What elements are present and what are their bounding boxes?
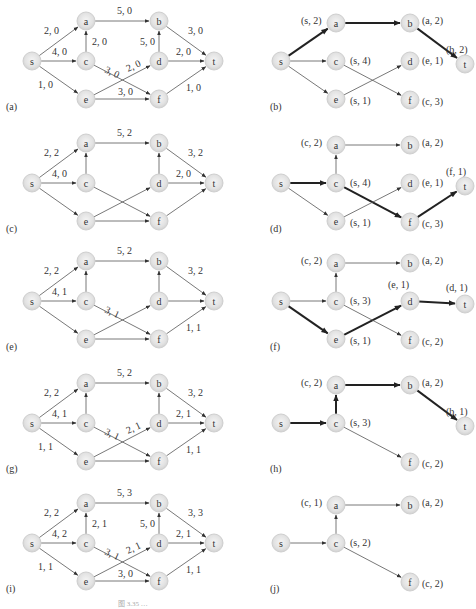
edge-s-e (39, 188, 77, 215)
node-c: c (327, 534, 345, 552)
node-label: e (84, 334, 89, 345)
node-f: f (401, 573, 419, 591)
panel-label-j: (j) (270, 583, 279, 595)
node-label: e (84, 456, 89, 467)
node-c: c (77, 174, 95, 192)
node-label: a (334, 18, 339, 29)
edge-label-s-a: 2, 2 (44, 265, 59, 276)
figure-caption: 图 3.35 … (118, 600, 148, 608)
node-d: d (150, 292, 168, 310)
edge-label-s-a: 2, 0 (44, 25, 59, 36)
node-tag-b: (a, 2) (422, 137, 443, 149)
node-f: f (401, 453, 419, 471)
node-s: s (23, 414, 41, 432)
node-label: s (30, 418, 34, 429)
edge-label-c-a: 2, 0 (92, 36, 107, 47)
node-tag-b: (a, 2) (422, 15, 443, 27)
panels-container: 2, 04, 01, 02, 05, 03, 02, 03, 05, 03, 0… (6, 5, 474, 595)
node-label: b (408, 500, 413, 511)
edge-label-c-a: 2, 1 (92, 518, 107, 529)
edge-label-b-t: 3, 2 (188, 147, 203, 158)
node-label: b (157, 256, 162, 267)
node-b: b (401, 136, 419, 154)
edge-label-f-t: 1, 1 (186, 444, 201, 455)
edge-e-d (94, 428, 150, 457)
node-label: a (84, 138, 89, 149)
node-label: t (464, 181, 467, 192)
panel-label-e: (e) (6, 341, 17, 353)
node-tag-c: (s, 3) (350, 295, 371, 307)
node-tag-b: (a, 2) (422, 255, 443, 267)
edge-label-s-e: 1, 0 (38, 79, 53, 90)
edge-label-a-b: 5, 2 (117, 245, 132, 256)
node-tag-d: (e, 1) (388, 279, 409, 291)
node-label: t (213, 418, 216, 429)
node-a: a (327, 254, 345, 272)
node-label: e (84, 94, 89, 105)
edge-label-s-a: 2, 2 (44, 147, 59, 158)
node-c: c (77, 534, 95, 552)
node-a: a (77, 252, 95, 270)
edge-e-d (94, 188, 150, 217)
panel-a: 2, 04, 01, 02, 05, 03, 02, 03, 05, 03, 0… (6, 5, 223, 113)
node-label: t (213, 538, 216, 549)
node-a: a (327, 496, 345, 514)
node-tag-c: (s, 4) (350, 55, 371, 67)
node-e: e (77, 452, 95, 470)
node-label: s (30, 538, 34, 549)
node-a: a (327, 14, 345, 32)
node-label: t (213, 178, 216, 189)
panel-c: 2, 24, 05, 23, 22, 0sacebdft(c) (6, 127, 223, 235)
node-tag-f: (c, 3) (422, 218, 443, 230)
node-a: a (77, 494, 95, 512)
edge-s-e (39, 306, 77, 333)
panel-g: 2, 24, 11, 15, 23, 12, 13, 22, 11, 1sace… (6, 367, 223, 475)
node-label: s (30, 178, 34, 189)
node-a: a (77, 12, 95, 30)
node-tag-f: (c, 2) (422, 578, 443, 590)
panel-f: sa(c, 2)b(a, 2)t(d, 1)c(s, 3)d(e, 1)e(s,… (270, 254, 474, 353)
node-f: f (401, 213, 419, 231)
node-label: e (334, 216, 339, 227)
node-label: c (84, 538, 89, 549)
panel-label-i: (i) (6, 583, 15, 595)
edge-label-a-b: 5, 2 (117, 127, 132, 138)
node-s: s (272, 174, 290, 192)
node-t: t (205, 52, 223, 70)
edge-c-f (94, 305, 150, 334)
node-label: a (84, 256, 89, 267)
node-tag-f: (c, 3) (422, 96, 443, 108)
panel-label-c: (c) (6, 223, 17, 235)
edge-c-f (94, 427, 150, 456)
node-t: t (456, 417, 474, 435)
node-tag-b: (a, 2) (422, 377, 443, 389)
edge-label-a-b: 5, 0 (117, 5, 132, 16)
node-tag-c: (s, 3) (350, 417, 371, 429)
node-label: b (157, 378, 162, 389)
edge-label-s-c: 4, 0 (52, 168, 67, 179)
panel-d: sa(c, 2)b(a, 2)t(f, 1)c(s, 4)d(e, 1)e(s,… (270, 136, 474, 235)
edge-label-b-t: 3, 3 (188, 507, 203, 518)
node-c: c (327, 414, 345, 432)
node-label: b (157, 16, 162, 27)
panel-h: sa(c, 2)b(a, 2)t(b, 1)c(s, 3)f(c, 2)(h) (270, 376, 474, 475)
node-t: t (456, 55, 474, 73)
node-d: d (150, 414, 168, 432)
edge-c-f (344, 547, 401, 577)
node-a: a (77, 374, 95, 392)
panel-label-a: (a) (6, 101, 17, 113)
node-f: f (150, 572, 168, 590)
panel-j: sa(c, 1)b(a, 2)c(s, 2)f(c, 2)(j) (270, 496, 443, 595)
edge-label-f-t: 1, 1 (186, 564, 201, 575)
node-label: t (464, 421, 467, 432)
edge-label-d-t: 2, 1 (176, 408, 191, 419)
edge-c-f (344, 427, 401, 457)
edge-label-s-e: 1, 1 (38, 561, 53, 572)
node-label: s (279, 296, 283, 307)
node-t: t (456, 295, 474, 313)
node-label: d (157, 296, 162, 307)
node-c: c (327, 292, 345, 310)
node-label: b (408, 258, 413, 269)
node-t: t (205, 292, 223, 310)
node-tag-t: (f, 1) (446, 166, 466, 178)
